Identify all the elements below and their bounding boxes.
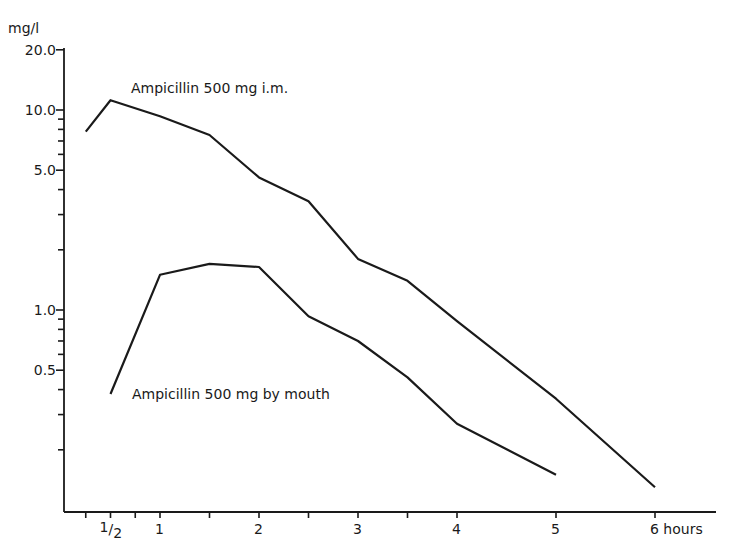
x-tick-label: 2	[254, 521, 263, 537]
x-tick-label: 6 hours	[650, 521, 703, 537]
x-tick-label: 5	[551, 521, 560, 537]
y-tick-label: 10.0	[25, 102, 56, 118]
series-line-im	[86, 100, 655, 487]
chart: mg/l 20.010.05.01.00.5 1/2123456 hours A…	[0, 0, 733, 553]
x-axis: 1/2123456 hours	[64, 512, 716, 541]
y-tick-label: 1.0	[34, 302, 56, 318]
y-tick-label: 0.5	[34, 362, 56, 378]
series-label-oral: Ampicillin 500 mg by mouth	[132, 386, 330, 402]
y-tick-label: 5.0	[34, 162, 56, 178]
series-group	[86, 100, 655, 487]
x-tick-label: 1	[155, 521, 164, 537]
x-tick-label: 1/2	[100, 519, 123, 541]
x-tick-label: 3	[353, 521, 362, 537]
y-axis-label: mg/l	[8, 20, 39, 36]
y-tick-label: 20.0	[25, 42, 56, 58]
series-line-oral	[111, 264, 557, 475]
x-tick-label: 4	[452, 521, 461, 537]
y-axis: 20.010.05.01.00.5	[25, 42, 64, 512]
series-label-im: Ampicillin 500 mg i.m.	[131, 80, 288, 96]
